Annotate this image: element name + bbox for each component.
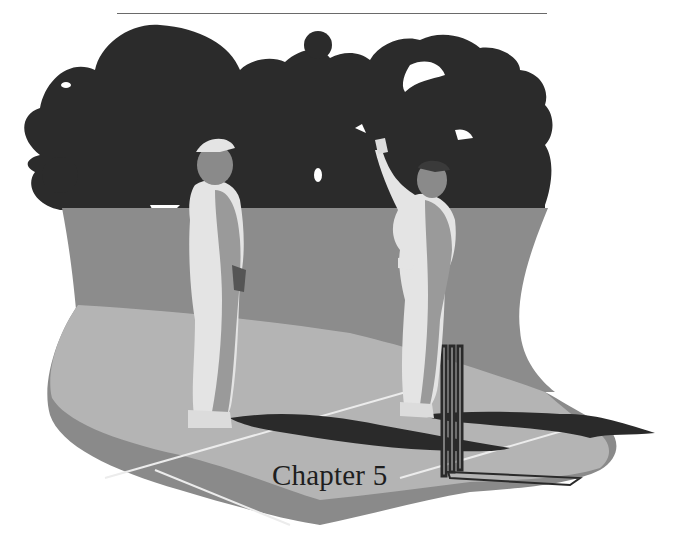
chapter-title: Chapter 5 [272,461,387,490]
trees-silhouette [24,25,552,210]
